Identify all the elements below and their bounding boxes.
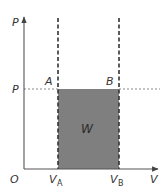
va-subscript: A: [57, 179, 63, 188]
work-label: W: [81, 122, 94, 136]
vb-subscript: B: [118, 179, 124, 188]
v-axis-label: V: [150, 173, 159, 186]
origin-label: O: [10, 173, 19, 186]
point-b-label: B: [106, 75, 114, 88]
pv-diagram: P P A B W O V A V B V: [0, 0, 166, 195]
pressure-level-label: P: [12, 83, 19, 96]
point-a-label: A: [44, 75, 53, 88]
p-axis-label: P: [12, 16, 19, 29]
